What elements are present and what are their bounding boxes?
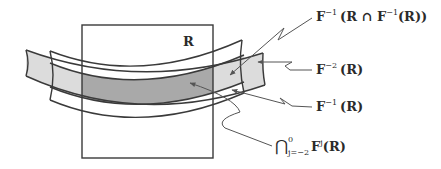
region-r-label: R: [183, 34, 194, 49]
svg-text:F−1(R ∩ F−1(R)): F−1(R ∩ F−1(R)): [316, 8, 427, 24]
horseshoe-diagram: R F−1(R ∩ F−1(R)) F−2(R) F−1(R) ⋂0j=−2Fj…: [0, 0, 441, 169]
label-intersection: ⋂0j=−2Fj(R): [275, 135, 346, 157]
label-f-inv1-r: F−1(R): [316, 98, 363, 114]
svg-text:F−2(R): F−2(R): [316, 61, 363, 77]
label-f-inv-r-cap-f-inv-r: F−1(R ∩ F−1(R)): [316, 8, 427, 24]
svg-text:F−1(R): F−1(R): [316, 98, 363, 114]
label-f-inv2-r: F−2(R): [316, 61, 363, 77]
svg-text:⋂0j=−2Fj(R): ⋂0j=−2Fj(R): [275, 135, 346, 157]
leader-f-inv2: [258, 62, 312, 70]
